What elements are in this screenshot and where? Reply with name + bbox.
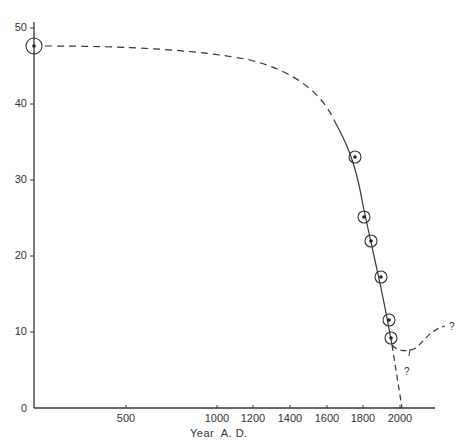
- y-label-0: 0: [21, 402, 27, 414]
- dashed-early-curve: [45, 46, 334, 120]
- y-tick-labels: 50 40 30 20 10 0: [15, 21, 27, 414]
- data-point: [383, 314, 395, 326]
- data-point: [358, 211, 370, 223]
- chart: 50 40 30 20 10 0 500 1000 1200 1400 1600…: [0, 0, 468, 444]
- data-point: [375, 271, 387, 283]
- x-label-1800: 1800: [351, 412, 375, 424]
- x-label-1200: 1200: [241, 412, 265, 424]
- x-label-1400: 1400: [278, 412, 302, 424]
- data-point: [365, 235, 377, 247]
- data-points: [26, 38, 397, 344]
- x-tick-labels: 500 1000 1200 1400 1600 1800 2000: [117, 412, 412, 424]
- recovery-tick: [409, 349, 410, 356]
- x-label-1600: 1600: [315, 412, 339, 424]
- y-label-40: 40: [15, 97, 27, 109]
- x-label-2000: 2000: [388, 412, 412, 424]
- y-label-20: 20: [15, 249, 27, 261]
- x-label-1000: 1000: [205, 412, 229, 424]
- question-mark-decline: ?: [404, 366, 410, 377]
- dashed-recovery-projection: [392, 326, 445, 351]
- x-axis-title: Year A. D.: [190, 427, 248, 439]
- question-mark-recovery: ?: [449, 321, 455, 332]
- y-label-10: 10: [15, 325, 27, 337]
- y-label-50: 50: [15, 21, 27, 33]
- x-label-500: 500: [117, 412, 135, 424]
- dashed-decline-projection: [392, 345, 402, 408]
- solid-fitted-curve: [334, 120, 392, 345]
- y-label-30: 30: [15, 173, 27, 185]
